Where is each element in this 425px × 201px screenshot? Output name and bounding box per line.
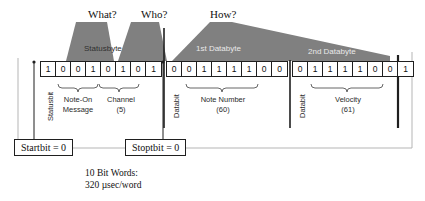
callout-stoptbit: Stoptbit = 0 — [125, 139, 186, 156]
byte-caption-second-databyte: 2nd Databyte — [308, 47, 356, 56]
bit-cell: 0 — [167, 62, 182, 76]
bit-cell: 0 — [383, 62, 398, 76]
group-caption-line2: (60) — [186, 105, 260, 115]
byteblock-second-databyte: 0 1 1 1 1 0 0 1 — [292, 61, 414, 77]
midi-message-diagram: What? Who? How? Statusbyte 1st Databy — [0, 0, 425, 201]
footnote-line1: 10 Bit Words: — [85, 168, 138, 180]
startbit-anchor-dot — [32, 60, 35, 63]
bit-cell: 1 — [197, 62, 212, 76]
group-caption-channel: Channel (5) — [96, 95, 146, 114]
bit-cell: 1 — [323, 62, 338, 76]
brace-channel — [99, 84, 139, 92]
group-caption-line1: Note Number — [186, 95, 260, 105]
wedge-how — [172, 22, 390, 61]
bit-cell: 1 — [398, 62, 413, 76]
bit-cell: 1 — [338, 62, 353, 76]
bit-cell: 0 — [101, 62, 116, 76]
bit-cell: 1 — [41, 62, 56, 76]
callout-startbit: Startbit = 0 — [14, 139, 73, 156]
bit-cell: 1 — [242, 62, 257, 76]
bit-cell: 0 — [272, 62, 287, 76]
bit-cell: 1 — [227, 62, 242, 76]
bit-cell: 1 — [353, 62, 368, 76]
bit-cell: 0 — [182, 62, 197, 76]
brace-note-number — [186, 84, 258, 92]
group-caption-line2: (5) — [96, 105, 146, 115]
group-caption-line2: (61) — [311, 105, 385, 115]
bit-cell: 1 — [116, 62, 131, 76]
byteblock-first-databyte: 0 0 1 1 1 1 0 0 — [166, 61, 288, 77]
bit-cell: 1 — [308, 62, 323, 76]
bit-cell: 0 — [56, 62, 71, 76]
group-caption-line1: Channel — [96, 95, 146, 105]
bit-cell: 1 — [86, 62, 101, 76]
bit-cell: 1 — [212, 62, 227, 76]
byte-caption-statusbyte: Statusbyte — [84, 44, 122, 53]
bit-cell: 0 — [131, 62, 146, 76]
vertical-label-databit-2: Databit — [298, 94, 307, 118]
footnote-line2: 320 µsec/word — [85, 180, 141, 192]
bit-cell: 0 — [293, 62, 308, 76]
brace-velocity — [311, 84, 383, 92]
group-caption-velocity: Velocity (61) — [311, 95, 385, 114]
group-caption-line1: Velocity — [311, 95, 385, 105]
byte-caption-first-databyte: 1st Databyte — [196, 44, 241, 53]
bit-cell: 0 — [257, 62, 272, 76]
group-caption-note-number: Note Number (60) — [186, 95, 260, 114]
vertical-label-databit-1: Databit — [172, 94, 181, 118]
brace-note-on-message — [58, 84, 98, 92]
bit-cell: 1 — [146, 62, 161, 76]
wedge-who — [118, 22, 167, 61]
byteblock-statusbyte: 1 0 0 1 0 1 0 1 — [40, 61, 162, 77]
bit-cell: 0 — [368, 62, 383, 76]
wedge-what — [66, 22, 114, 61]
bit-cell: 0 — [71, 62, 86, 76]
